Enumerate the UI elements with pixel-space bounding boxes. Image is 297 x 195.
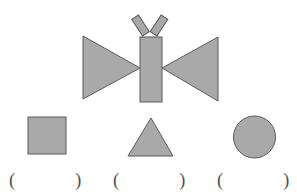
answer-3-close-paren: )	[283, 169, 289, 191]
option-circle	[234, 116, 276, 158]
body-rectangle	[140, 37, 162, 102]
option-square	[28, 117, 66, 154]
answer-1-slot[interactable]	[20, 168, 74, 192]
answer-2-open-paren: (	[113, 169, 119, 191]
answer-1-open-paren: (	[9, 169, 15, 191]
left-antenna-rectangle	[132, 15, 150, 36]
option-triangle	[128, 118, 173, 156]
worksheet-figure	[0, 0, 297, 195]
butterfly-figure	[83, 15, 218, 102]
answer-2-close-paren: )	[179, 169, 185, 191]
right-wing-triangle	[162, 37, 218, 101]
answer-3-open-paren: (	[217, 169, 223, 191]
answer-1-close-paren: )	[75, 169, 81, 191]
answer-2-slot[interactable]	[124, 168, 178, 192]
option-shapes	[28, 116, 276, 158]
answer-3-slot[interactable]	[228, 168, 282, 192]
right-antenna-rectangle	[150, 15, 168, 36]
left-wing-triangle	[83, 36, 140, 99]
